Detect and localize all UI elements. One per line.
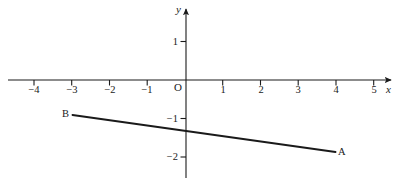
y-tick-label-1: 1: [160, 36, 178, 47]
x-tick-label--3: −3: [66, 85, 77, 96]
x-tick-label-4: 4: [333, 85, 338, 96]
x-tick-label--1: −1: [141, 85, 152, 96]
x-tick-label-2: 2: [258, 85, 263, 96]
y-tick-label--2: −2: [156, 152, 178, 163]
y-axis-ticks: [181, 42, 187, 158]
x-tick-label-3: 3: [295, 85, 300, 96]
y-axis-label: y: [176, 4, 181, 15]
segment-ba: [73, 115, 336, 152]
x-tick-label--4: −4: [28, 85, 39, 96]
point-label-a: A: [338, 147, 346, 158]
point-label-b: B: [62, 109, 69, 120]
x-axis-label: x: [386, 84, 391, 95]
coordinate-plane-figure: −4 −3 −2 −1 1 2 3 4 5 1 −1 −2 O y x B A: [0, 0, 400, 184]
y-tick-label--1: −1: [156, 113, 178, 124]
x-tick-label-5: 5: [371, 85, 376, 96]
x-tick-label-1: 1: [220, 85, 225, 96]
x-axis-ticks: [34, 80, 374, 86]
x-tick-label--2: −2: [104, 85, 115, 96]
origin-label: O: [174, 82, 182, 93]
